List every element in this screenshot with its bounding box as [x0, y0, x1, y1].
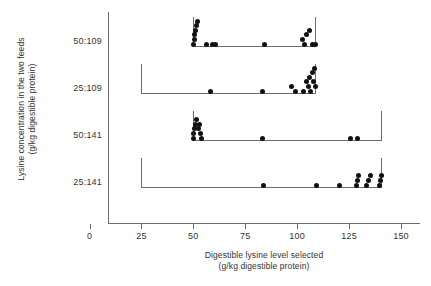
- x-axis-title-line1: Digestible lysine level selected: [108, 250, 420, 261]
- data-point: [308, 89, 313, 94]
- data-point: [197, 122, 202, 127]
- y-axis-title: Lysine concentration in the two feeds (g…: [16, 24, 38, 194]
- data-point: [293, 89, 298, 94]
- x-tick-label: 125: [329, 231, 369, 241]
- data-point: [195, 19, 200, 24]
- data-point: [337, 183, 342, 188]
- data-point: [314, 183, 319, 188]
- data-point: [199, 136, 204, 141]
- data-point: [260, 136, 265, 141]
- data-point: [307, 28, 312, 33]
- x-tick-mark: [193, 224, 194, 229]
- x-tick-mark: [90, 224, 91, 229]
- bracket-cap-left: [141, 158, 142, 188]
- y-axis-spine: [108, 12, 109, 224]
- data-point: [191, 136, 196, 141]
- x-tick-label: 0: [70, 231, 110, 241]
- data-point: [194, 23, 199, 28]
- y-axis-title-line1: Lysine concentration in the two feeds: [16, 24, 27, 194]
- data-point: [204, 42, 209, 47]
- data-point: [313, 42, 318, 47]
- scatter-chart: Lysine concentration in the two feeds (g…: [0, 0, 431, 286]
- x-tick-mark: [141, 224, 142, 229]
- x-tick-mark: [401, 224, 402, 229]
- bracket-cap-left: [141, 64, 142, 94]
- data-point: [348, 136, 353, 141]
- x-tick-mark: [349, 224, 350, 229]
- x-axis-title-line2: (g/kg digestible protein): [108, 261, 420, 272]
- x-tick-label: 50: [173, 231, 213, 241]
- data-point: [192, 37, 197, 42]
- data-point: [354, 183, 359, 188]
- x-tick-label: 150: [381, 231, 421, 241]
- data-point: [213, 42, 218, 47]
- data-point: [312, 66, 317, 71]
- data-point: [355, 136, 360, 141]
- range-bracket-25-109: [141, 64, 315, 94]
- x-tick-mark: [245, 224, 246, 229]
- bracket-baseline: [193, 140, 382, 141]
- data-point: [379, 173, 384, 178]
- data-point: [378, 178, 383, 183]
- data-point: [193, 28, 198, 33]
- x-tick-label: 75: [225, 231, 265, 241]
- data-point: [301, 89, 306, 94]
- data-point: [364, 183, 369, 188]
- x-tick-mark: [297, 224, 298, 229]
- bracket-cap-right: [381, 111, 382, 141]
- y-tick-label-25-141: 25:141: [42, 177, 102, 187]
- data-point: [191, 42, 196, 47]
- y-axis-title-line2: (g/kg digestible protein): [27, 24, 38, 194]
- x-axis-spine: [108, 223, 420, 224]
- x-axis-title: Digestible lysine level selected (g/kg d…: [108, 250, 420, 272]
- y-tick-label-25-109: 25:109: [42, 83, 102, 93]
- data-point: [260, 89, 265, 94]
- data-point: [355, 178, 360, 183]
- y-tick-label-50-141: 50:141: [42, 130, 102, 140]
- data-point: [377, 183, 382, 188]
- y-tick-label-50-109: 50:109: [42, 36, 102, 46]
- x-tick-label: 25: [121, 231, 161, 241]
- bracket-baseline: [141, 93, 315, 94]
- x-tick-label: 100: [277, 231, 317, 241]
- range-bracket-50-141: [193, 111, 382, 141]
- data-point: [313, 84, 318, 89]
- data-point: [302, 42, 307, 47]
